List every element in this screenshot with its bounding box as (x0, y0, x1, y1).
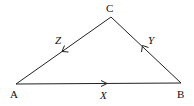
edge-bc (111, 17, 181, 83)
edge-ab (16, 83, 181, 84)
edge-label-x: X (99, 89, 108, 101)
triangle-diagram: C A B Z Y X (0, 0, 194, 106)
edge-label-y: Y (148, 34, 156, 46)
edge-label-z: Z (55, 34, 62, 46)
edge-ca (16, 17, 111, 84)
vertex-label-c: C (106, 2, 113, 14)
vertex-label-a: A (10, 88, 18, 100)
vertex-label-b: B (177, 88, 184, 100)
